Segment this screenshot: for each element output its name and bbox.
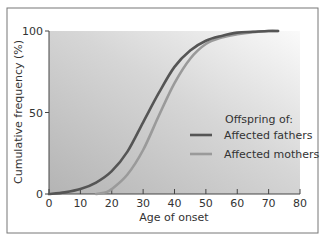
x-tick-label: 10 [73, 197, 87, 210]
legend-label: Affected mothers [224, 148, 319, 161]
cumulative-frequency-chart: 01020304050607080050100 Offspring of:Aff… [0, 0, 324, 240]
x-tick-label: 70 [262, 197, 276, 210]
x-tick-label: 80 [293, 197, 307, 210]
x-tick-label: 0 [46, 197, 53, 210]
x-axis-label: Age of onset [139, 211, 209, 224]
x-tick-label: 20 [105, 197, 119, 210]
y-axis-label: Cumulative frequency (%) [12, 40, 25, 184]
chart-svg: 01020304050607080050100 Offspring of:Aff… [0, 0, 324, 240]
y-tick-label: 50 [29, 107, 43, 120]
x-tick-label: 30 [136, 197, 150, 210]
y-tick-label: 100 [22, 25, 43, 38]
legend-label: Affected fathers [224, 129, 313, 142]
x-tick-label: 50 [199, 197, 213, 210]
x-tick-label: 40 [168, 197, 182, 210]
x-tick-label: 60 [230, 197, 244, 210]
y-tick-label: 0 [36, 188, 43, 201]
legend-title: Offspring of: [225, 113, 293, 126]
